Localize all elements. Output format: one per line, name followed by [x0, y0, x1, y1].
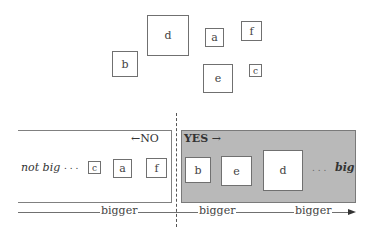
box-b-top: b [112, 51, 138, 77]
box-d-yes: d [263, 150, 303, 191]
yes-label: YES [184, 132, 208, 145]
no-label-group: ←NO [131, 132, 159, 145]
box-a-top: a [205, 28, 224, 47]
box-c-no: c [88, 161, 101, 174]
no-ellipsis: . . . [64, 161, 78, 171]
box-e-yes: e [221, 156, 252, 186]
axis-label-bigger-2: bigger [198, 205, 236, 217]
not-big-label: not big [21, 161, 60, 174]
axis-label-bigger-1: bigger [100, 205, 138, 217]
yes-label-group: YES → [184, 132, 221, 145]
no-label: NO [140, 132, 159, 145]
decision-divider [176, 113, 177, 227]
yes-ellipsis: . . . [312, 163, 326, 173]
box-d-top: d [147, 15, 189, 56]
box-e-top: e [203, 64, 233, 93]
box-a-no: a [113, 159, 132, 178]
right-arrow-icon: → [212, 132, 221, 145]
axis-arrowhead-icon [348, 208, 356, 216]
left-arrow-icon: ← [131, 132, 140, 145]
box-c-top: c [249, 64, 262, 77]
box-f-no: f [146, 158, 167, 178]
box-f-top: f [241, 21, 262, 41]
big-label: big [335, 161, 355, 174]
axis-label-bigger-3: bigger [294, 205, 332, 217]
box-b-yes: b [185, 157, 211, 183]
